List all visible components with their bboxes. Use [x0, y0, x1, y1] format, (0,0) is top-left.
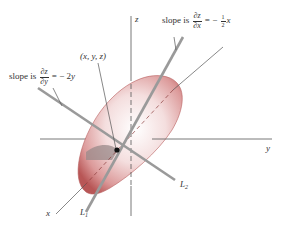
L1-label: L1	[80, 208, 88, 218]
slope-x-leader	[174, 37, 176, 50]
z-axis-label: z	[135, 15, 139, 24]
figure-canvas	[0, 0, 282, 229]
x-axis-label: x	[46, 209, 50, 218]
tangent-point	[114, 147, 119, 152]
x-axis-upper	[173, 47, 223, 90]
L2-label: L2	[180, 180, 188, 190]
slope-x-annotation: slope is ∂z∂x = − 12x	[162, 12, 231, 30]
point-label: (x, y, z)	[80, 52, 106, 61]
slope-y-leader	[53, 88, 62, 106]
slope-y-annotation: slope is ∂z∂y = − 2y	[9, 68, 75, 86]
y-axis-label: y	[266, 144, 270, 153]
